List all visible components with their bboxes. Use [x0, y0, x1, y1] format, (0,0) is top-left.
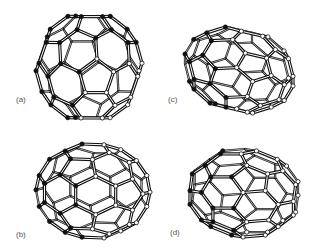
carbon-atom: [263, 189, 267, 193]
carbon-atom: [241, 235, 245, 239]
carbon-atom: [291, 199, 295, 203]
carbon-atom: [267, 218, 271, 222]
panel-label-d: (d): [170, 229, 180, 237]
carbon-atom: [232, 228, 236, 232]
carbon-atom: [281, 219, 285, 223]
bond-highlight: [232, 177, 244, 193]
carbon-atom: [188, 202, 192, 206]
carbon-atom: [188, 189, 192, 193]
fullerene-molecule-d: [0, 0, 313, 252]
carbon-atom: [211, 220, 215, 224]
bond-highlight: [190, 204, 201, 220]
bond-highlight: [283, 171, 296, 185]
bond-highlight: [265, 191, 278, 205]
bond-highlight: [232, 165, 247, 177]
carbon-atom: [263, 233, 267, 237]
carbon-atom: [291, 213, 295, 217]
carbon-atom: [230, 175, 234, 179]
carbon-atom: [296, 193, 300, 197]
carbon-atom: [230, 233, 234, 237]
bond-highlight: [201, 177, 210, 193]
bond-highlight: [210, 182, 223, 196]
carbon-atom: [218, 152, 222, 156]
bond-highlight: [269, 204, 278, 220]
carbon-atom: [254, 149, 258, 153]
carbon-atom: [276, 202, 280, 206]
bond-highlight: [201, 193, 213, 209]
bond-highlight: [205, 154, 220, 166]
carbon-atom: [275, 157, 279, 161]
bond-highlight: [245, 194, 257, 210]
carbon-atom: [239, 152, 243, 156]
carbon-atom: [190, 172, 194, 176]
carbon-atom: [232, 206, 236, 210]
carbon-atom: [294, 183, 298, 187]
carbon-atom: [266, 172, 270, 176]
carbon-atom: [245, 163, 249, 167]
carbon-atom: [285, 164, 289, 168]
carbon-atom: [245, 230, 249, 234]
carbon-atom: [245, 220, 249, 224]
carbon-atom: [241, 190, 245, 194]
carbon-atom: [211, 206, 215, 210]
carbon-atom: [203, 163, 207, 167]
carbon-atom: [276, 225, 280, 229]
bond-highlight: [275, 178, 287, 194]
carbon-atom: [199, 218, 203, 222]
carbon-atom: [209, 225, 213, 229]
carbon-atom: [281, 169, 285, 173]
carbon-atom: [209, 175, 213, 179]
carbon-atom: [199, 190, 203, 194]
